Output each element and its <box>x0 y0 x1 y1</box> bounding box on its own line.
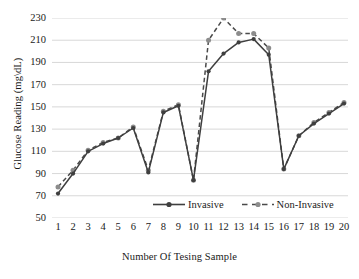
legend-entry-invasive: Invasive <box>152 199 224 210</box>
chart-legend: Invasive Non-Invasive <box>152 197 334 212</box>
data-point <box>221 51 225 55</box>
data-point <box>56 191 60 195</box>
data-point <box>101 141 105 145</box>
data-point <box>206 38 211 43</box>
y-tick-label: 150 <box>16 102 46 112</box>
data-point <box>131 126 135 130</box>
legend-swatch-invasive-line-icon <box>152 199 186 210</box>
data-point <box>312 121 316 125</box>
data-point <box>252 37 256 41</box>
data-point <box>236 31 241 36</box>
data-point <box>266 46 271 51</box>
y-tick-label: 110 <box>16 146 46 156</box>
x-axis-title: Number Of Tesing Sample <box>0 251 359 262</box>
data-point <box>297 134 301 138</box>
data-point <box>342 101 346 105</box>
data-point <box>161 110 165 114</box>
data-point <box>282 167 286 171</box>
y-tick-label: 190 <box>16 57 46 67</box>
data-point <box>251 31 256 36</box>
legend-swatch-non-invasive-line-icon <box>241 199 275 210</box>
data-point <box>191 178 195 182</box>
y-tick-label: 130 <box>16 124 46 134</box>
legend-label-invasive: Invasive <box>188 199 224 210</box>
data-point <box>71 171 75 175</box>
legend-entry-non-invasive: Non-Invasive <box>241 199 334 210</box>
data-point <box>116 136 120 140</box>
x-tick-label: 20 <box>333 220 355 233</box>
data-point <box>176 104 180 108</box>
data-point <box>146 170 150 174</box>
y-tick-label: 210 <box>16 35 46 45</box>
series-line-non-invasive <box>58 18 344 187</box>
data-point <box>237 40 241 44</box>
y-tick-label: 70 <box>16 191 46 201</box>
y-axis-tick-labels: 230210190170150130110907050 <box>16 0 46 279</box>
data-point <box>86 149 90 153</box>
y-tick-label: 230 <box>16 13 46 23</box>
y-tick-label: 50 <box>16 213 46 223</box>
data-point <box>206 69 210 73</box>
data-point <box>267 53 271 57</box>
plot-area <box>52 18 348 218</box>
legend-label-non-invasive: Non-Invasive <box>277 199 334 210</box>
glucose-line-chart: Glucose Reading (mg\dL) 2302101901701501… <box>0 0 359 279</box>
y-tick-label: 170 <box>16 80 46 90</box>
data-point <box>56 184 61 189</box>
y-tick-label: 90 <box>16 169 46 179</box>
data-point <box>327 111 331 115</box>
x-axis-tick-labels: 1234567891011121314151617181920 <box>52 220 348 236</box>
plot-svg <box>52 18 348 218</box>
